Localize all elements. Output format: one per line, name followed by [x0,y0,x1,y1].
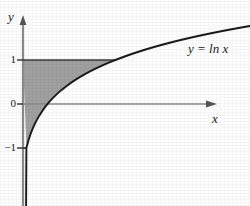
x-axis-arrow [206,100,217,107]
ln-x-figure: y x y = ln x 1 0 −1 [0,0,250,206]
y-axis-label: y [8,10,14,23]
y-tick-label-neg1: −1 [0,142,16,153]
y-tick-label-1: 1 [0,54,16,65]
plot-canvas [0,0,250,206]
x-axis-label: x [212,112,218,125]
curve-equation-label: y = ln x [188,42,228,55]
y-axis-arrow [20,15,27,25]
y-tick-label-0: 0 [0,98,16,109]
